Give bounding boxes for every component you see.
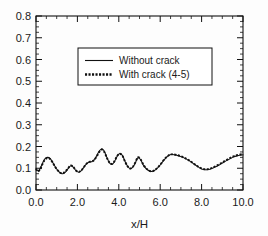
y-tick-label: 0.6 [16, 54, 31, 66]
y-axis-tick-labels: 0.00.10.20.30.40.50.60.70.8 [16, 10, 31, 196]
y-tick-label: 0.0 [16, 184, 31, 196]
axis-frame [36, 16, 243, 190]
y-tick-label: 0.8 [16, 10, 31, 22]
x-tick-label: 6.0 [153, 196, 168, 208]
series-line-with-crack [36, 150, 243, 174]
chart-figure: 0.00.10.20.30.40.50.60.70.8 0.02.04.06.0… [0, 0, 268, 236]
x-tick-label: 0.0 [28, 196, 43, 208]
y-tick-label: 0.2 [16, 141, 31, 153]
y-tick-label: 0.3 [16, 119, 31, 131]
y-tick-label: 0.1 [16, 162, 31, 174]
legend-label-with-crack: With crack (4-5) [119, 69, 190, 80]
y-tick-label: 0.7 [16, 32, 31, 44]
chart-legend: Without crack With crack (4-5) [78, 48, 212, 85]
x-axis-title: x/H [131, 218, 148, 230]
legend-label-without-crack: Without crack [119, 55, 181, 66]
x-tick-label: 2.0 [70, 196, 85, 208]
x-tick-label: 8.0 [194, 196, 209, 208]
chart-plot-svg: 0.00.10.20.30.40.50.60.70.8 0.02.04.06.0… [0, 0, 268, 236]
y-tick-label: 0.4 [16, 97, 31, 109]
x-tick-label: 4.0 [111, 196, 126, 208]
x-axis-ticks [36, 16, 243, 190]
plot-frame-rect [36, 16, 243, 190]
data-series-group [36, 149, 243, 174]
x-axis-tick-labels: 0.02.04.06.08.010.0 [28, 196, 253, 208]
y-axis-ticks [36, 16, 243, 190]
y-tick-label: 0.5 [16, 75, 31, 87]
x-tick-label: 10.0 [232, 196, 253, 208]
